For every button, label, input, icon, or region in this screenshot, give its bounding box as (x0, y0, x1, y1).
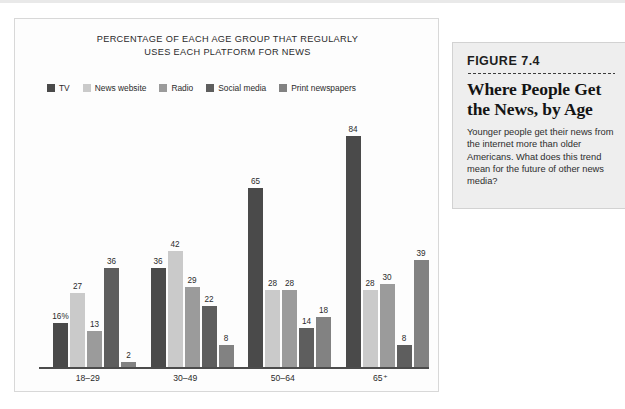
bar (299, 328, 314, 367)
bar-column: 18 (316, 107, 331, 367)
legend-item: Print newspapers (279, 83, 356, 93)
chart-plot-area: 16%27133623642292286528281418842830839 (39, 107, 429, 369)
bar-value-label: 27 (73, 282, 82, 292)
bar-column: 84 (346, 107, 361, 367)
bar (316, 317, 331, 367)
bar-column: 22 (202, 107, 217, 367)
bar (414, 260, 429, 367)
bar-value-label: 8 (402, 334, 407, 344)
chart-title-line-1: PERCENTAGE OF EACH AGE GROUP THAT REGULA… (15, 33, 440, 46)
bar-value-label: 8 (224, 334, 229, 344)
bar-column: 16% (53, 107, 68, 367)
bar-value-label: 28 (268, 279, 277, 289)
legend-label: Print newspapers (291, 83, 356, 93)
bar-column: 27 (70, 107, 85, 367)
bar-column: 36 (104, 107, 119, 367)
legend-label: Social media (218, 83, 266, 93)
figure-body-text: Younger people get their news from the i… (467, 126, 615, 187)
legend-item: TV (47, 83, 70, 93)
bar-value-label: 30 (382, 273, 391, 283)
bar-value-label: 42 (170, 240, 179, 250)
legend-item: Social media (206, 83, 266, 93)
bar (265, 290, 280, 367)
bar (219, 345, 234, 367)
figure-dotted-divider (467, 72, 615, 75)
bar-group: 16%2713362 (39, 107, 137, 367)
bar (346, 136, 361, 367)
x-axis-category-label: 18–29 (39, 373, 137, 383)
x-axis-category-labels: 18–2930–4950–6465⁺ (39, 373, 429, 383)
bar (363, 290, 378, 367)
bar-value-label: 84 (348, 125, 357, 135)
x-axis-category-label: 65⁺ (332, 373, 430, 383)
bar (87, 331, 102, 367)
legend-label: TV (59, 83, 70, 93)
bar-column: 8 (397, 107, 412, 367)
bar-column: 14 (299, 107, 314, 367)
bar-groups: 16%27133623642292286528281418842830839 (39, 107, 429, 367)
legend-swatch-icon (47, 84, 55, 92)
legend-label: News website (95, 83, 147, 93)
bar-value-label: 22 (204, 295, 213, 305)
bar (282, 290, 297, 367)
x-axis-category-label: 30–49 (137, 373, 235, 383)
figure-caption-box: FIGURE 7.4 Where People Get the News, by… (452, 42, 625, 209)
bar-column: 2 (121, 107, 136, 367)
bar-value-label: 18 (319, 306, 328, 316)
bar-column: 28 (282, 107, 297, 367)
bar-group: 364229228 (137, 107, 235, 367)
bar (202, 306, 217, 367)
bar (53, 323, 68, 367)
bar-column: 8 (219, 107, 234, 367)
bar-value-label: 16% (52, 312, 68, 322)
bar-column: 13 (87, 107, 102, 367)
bar-group: 6528281418 (234, 107, 332, 367)
bar-group: 842830839 (332, 107, 430, 367)
bar-column: 39 (414, 107, 429, 367)
x-axis-line (39, 367, 429, 369)
chart-panel: PERCENTAGE OF EACH AGE GROUP THAT REGULA… (14, 18, 439, 392)
bar (104, 268, 119, 367)
bar (397, 345, 412, 367)
legend-label: Radio (171, 83, 193, 93)
legend-swatch-icon (279, 84, 287, 92)
bar-column: 36 (151, 107, 166, 367)
bar-value-label: 29 (187, 276, 196, 286)
figure-heading: Where People Get the News, by Age (467, 80, 615, 119)
bar-value-label: 39 (416, 249, 425, 259)
bar-value-label: 14 (302, 317, 311, 327)
bar (70, 293, 85, 367)
bar-column: 28 (363, 107, 378, 367)
bar-column: 28 (265, 107, 280, 367)
legend-swatch-icon (83, 84, 91, 92)
bar-value-label: 2 (126, 351, 131, 361)
chart-title: PERCENTAGE OF EACH AGE GROUP THAT REGULA… (15, 33, 440, 59)
chart-title-line-2: USES EACH PLATFORM FOR NEWS (15, 46, 440, 59)
bar-column: 30 (380, 107, 395, 367)
bar-column: 42 (168, 107, 183, 367)
legend-swatch-icon (206, 84, 214, 92)
bar-value-label: 28 (285, 279, 294, 289)
bar-column: 65 (248, 107, 263, 367)
bar (380, 284, 395, 367)
bar-value-label: 36 (107, 257, 116, 267)
bar (151, 268, 166, 367)
bar (185, 287, 200, 367)
figure-number: FIGURE 7.4 (467, 54, 615, 68)
bar (168, 251, 183, 367)
bar-value-label: 65 (251, 177, 260, 187)
legend-item: News website (83, 83, 147, 93)
page-top-rule (0, 0, 625, 3)
legend-item: Radio (159, 83, 193, 93)
bar-column: 29 (185, 107, 200, 367)
legend-swatch-icon (159, 84, 167, 92)
chart-legend: TVNews websiteRadioSocial mediaPrint new… (47, 83, 417, 93)
x-axis-category-label: 50–64 (234, 373, 332, 383)
bar (248, 188, 263, 367)
bar-value-label: 13 (90, 320, 99, 330)
bar-value-label: 28 (365, 279, 374, 289)
bar-value-label: 36 (153, 257, 162, 267)
